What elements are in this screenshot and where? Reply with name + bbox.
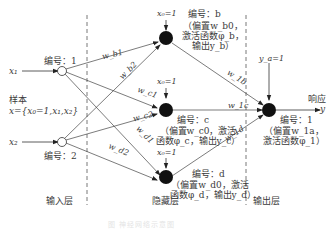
hidden-node-d-desc-1: （偏置w_d0，激活 <box>170 180 250 190</box>
bias-input-d: x₀=1 <box>157 148 177 158</box>
hidden-node-b <box>159 31 173 45</box>
hidden-node-c-desc-1: （偏置w_c0，激活 <box>150 126 246 136</box>
output-node-1 <box>262 103 276 117</box>
hidden-node-b-desc-3: 输出y_b） <box>178 41 248 51</box>
bias-input-c: x₀=1 <box>157 77 177 87</box>
input-node-2 <box>58 138 67 147</box>
response-var: y <box>320 104 325 114</box>
sample-formula: x={x₀=1,x₁,x₂} <box>9 106 78 116</box>
neural-network-diagram: x₁ x₂ 编号：1 编号：2 样本 x={x₀=1,x₁,x₂} w_b1 w… <box>0 0 334 229</box>
sample-label: 样本 <box>9 95 27 105</box>
hidden-node-b-desc-1: （偏置w_b0， <box>178 21 248 31</box>
hidden-node-b-desc-2: 激活函数φ_b， <box>178 31 248 41</box>
hidden-node-d-desc-2: 函数φ_d，输出y_d） <box>170 190 250 200</box>
figure-caption: 图 神经网络示意图 <box>108 219 175 229</box>
input-x1-label: x₁ <box>9 66 18 76</box>
output-node-desc-1: （偏置w_1a， <box>258 126 330 136</box>
bias-input-b: x₀=1 <box>157 9 177 19</box>
hidden-node-b-id: 编号：b <box>188 9 221 19</box>
output-node-id: 编号：1 <box>280 115 313 125</box>
output-node-desc-2: 激活函数φ_1） <box>258 136 330 146</box>
hidden-node-c-desc-2: 函数φ_c，输出y_c） <box>150 136 246 146</box>
hidden-node-c-id: 编号：c <box>177 115 209 125</box>
response-label: 响应 <box>308 94 326 104</box>
input-x2-label: x₂ <box>9 137 18 147</box>
weight-w1c: w_1c <box>228 101 248 111</box>
input-layer-label: 输入层 <box>46 196 73 206</box>
bias-input-output: y_a=1 <box>259 54 284 64</box>
hidden-layer-label: 隐藏层 <box>152 196 179 206</box>
hidden-node-c <box>159 103 173 117</box>
output-layer-label: 输出层 <box>253 196 280 206</box>
hidden-node-d-id: 编号：d <box>192 169 225 179</box>
input-node-2-id: 编号：2 <box>44 151 77 161</box>
input-node-1 <box>58 67 67 76</box>
input-node-1-id: 编号：1 <box>44 56 77 66</box>
